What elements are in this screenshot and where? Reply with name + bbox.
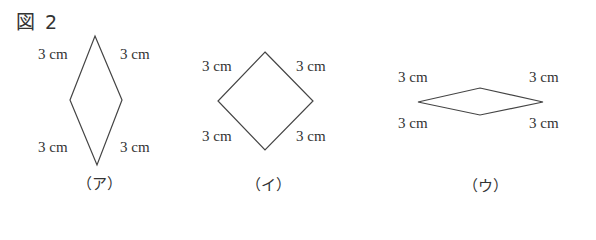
side-label-u-top-right: 3 cm (529, 69, 559, 86)
caption-u: （ウ） (463, 174, 508, 195)
rhombus-a (70, 36, 122, 165)
side-label-a-top-right: 3 cm (120, 46, 150, 63)
side-label-a-bottom-left: 3 cm (38, 139, 68, 156)
side-label-i-bottom-right: 3 cm (296, 128, 326, 145)
side-label-a-top-left: 3 cm (38, 46, 68, 63)
side-label-u-bottom-left: 3 cm (398, 115, 428, 132)
caption-a: （ア） (77, 172, 122, 193)
side-label-i-bottom-left: 3 cm (202, 128, 232, 145)
side-label-i-top-left: 3 cm (202, 58, 232, 75)
side-label-u-bottom-right: 3 cm (529, 115, 559, 132)
side-label-i-top-right: 3 cm (296, 58, 326, 75)
side-label-u-top-left: 3 cm (398, 69, 428, 86)
rhombus-u (418, 88, 543, 115)
caption-i: （イ） (246, 173, 291, 194)
side-label-a-bottom-right: 3 cm (120, 139, 150, 156)
